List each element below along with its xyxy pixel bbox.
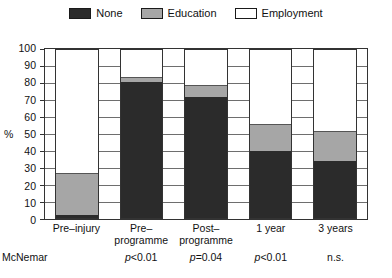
bar-segment-none: [56, 215, 98, 218]
legend-swatch-education-icon: [141, 8, 163, 19]
y-tick-label: 10: [24, 198, 36, 209]
mcnemar-value: [44, 250, 109, 266]
stacked-bar[interactable]: [184, 49, 228, 219]
bar-group: [45, 49, 367, 219]
plot-area: [44, 48, 368, 220]
legend-label-employment: Employment: [262, 8, 323, 19]
x-axis-label: Post–programme: [174, 222, 239, 246]
y-axis-tick-labels: 1009080706050403020100: [0, 48, 42, 220]
y-tick-mark: [40, 219, 45, 220]
legend-label-none: None: [96, 8, 122, 19]
bar-segment-none: [185, 97, 227, 218]
y-tick-label: 70: [24, 94, 36, 105]
stacked-bar[interactable]: [313, 49, 357, 219]
bar-slot: [109, 49, 173, 219]
bar-segment-none: [250, 151, 292, 218]
y-tick-label: 30: [24, 163, 36, 174]
bar-slot: [174, 49, 238, 219]
x-axis-label-line1: Pre–: [109, 222, 174, 234]
mcnemar-values: p<0.01p=0.04p<0.01n.s.: [44, 250, 368, 266]
y-tick-label: 60: [24, 112, 36, 123]
legend-item-none: None: [69, 8, 122, 19]
bar-slot: [238, 49, 302, 219]
mcnemar-value: p<0.01: [109, 250, 174, 266]
y-tick-label: 40: [24, 146, 36, 157]
x-axis-label: Pre–injury: [44, 222, 109, 246]
bar-segment-none: [121, 82, 163, 218]
x-axis-label-line1: 1 year: [238, 222, 303, 234]
legend-swatch-none-icon: [69, 8, 91, 19]
mcnemar-value: p<0.01: [238, 250, 303, 266]
bar-slot: [303, 49, 367, 219]
stacked-bar[interactable]: [120, 49, 164, 219]
x-axis-label-line2: programme: [109, 234, 174, 246]
x-axis-label: 3 years: [303, 222, 368, 246]
y-tick-label: 50: [24, 129, 36, 140]
x-axis-label-line1: 3 years: [303, 222, 368, 234]
y-tick-label: 80: [24, 77, 36, 88]
legend-swatch-employment-icon: [235, 8, 257, 19]
mcnemar-row: McNemar p<0.01p=0.04p<0.01n.s.: [0, 250, 392, 266]
legend-item-education: Education: [141, 8, 217, 19]
mcnemar-value: p=0.04: [174, 250, 239, 266]
y-tick-label: 90: [24, 60, 36, 71]
y-tick-label: 20: [24, 180, 36, 191]
x-axis-label-line1: Pre–injury: [44, 222, 109, 234]
bar-slot: [45, 49, 109, 219]
x-axis-label-line2: programme: [174, 234, 239, 246]
stacked-bar[interactable]: [55, 49, 99, 219]
mcnemar-row-label: McNemar: [2, 250, 48, 264]
y-tick-label: 0: [30, 215, 36, 226]
bar-segment-none: [314, 161, 356, 218]
bar-segment-education: [56, 173, 98, 218]
x-axis-labels: Pre–injuryPre–programmePost–programme1 y…: [44, 222, 368, 246]
stacked-bar[interactable]: [249, 49, 293, 219]
x-axis-label: 1 year: [238, 222, 303, 246]
chart-legend: None Education Employment: [0, 8, 392, 19]
legend-item-employment: Employment: [235, 8, 323, 19]
x-axis-label: Pre–programme: [109, 222, 174, 246]
legend-label-education: Education: [168, 8, 217, 19]
y-tick-label: 100: [18, 43, 36, 54]
mcnemar-value: n.s.: [303, 250, 368, 266]
x-axis-label-line1: Post–: [174, 222, 239, 234]
